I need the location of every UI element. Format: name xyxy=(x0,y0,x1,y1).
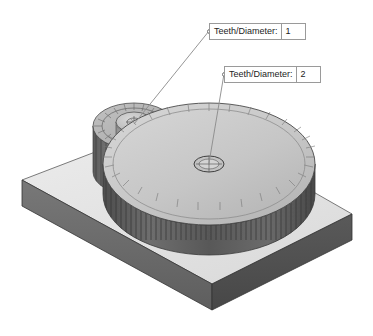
callout-teeth-diameter-2[interactable]: Teeth/Diameter: 2 xyxy=(224,66,321,83)
large-spur-gear xyxy=(103,103,315,255)
callout-value[interactable]: 2 xyxy=(297,67,320,82)
gear-assembly-model xyxy=(0,0,373,336)
callout-label: Teeth/Diameter: xyxy=(210,24,281,39)
callout-label: Teeth/Diameter: xyxy=(225,67,296,82)
callout-value[interactable]: 1 xyxy=(282,24,305,39)
callout-teeth-diameter-1[interactable]: Teeth/Diameter: 1 xyxy=(209,23,306,40)
cad-viewport: Teeth/Diameter: 1 Teeth/Diameter: 2 xyxy=(0,0,373,336)
center-bore-crosshair-icon xyxy=(194,156,224,172)
